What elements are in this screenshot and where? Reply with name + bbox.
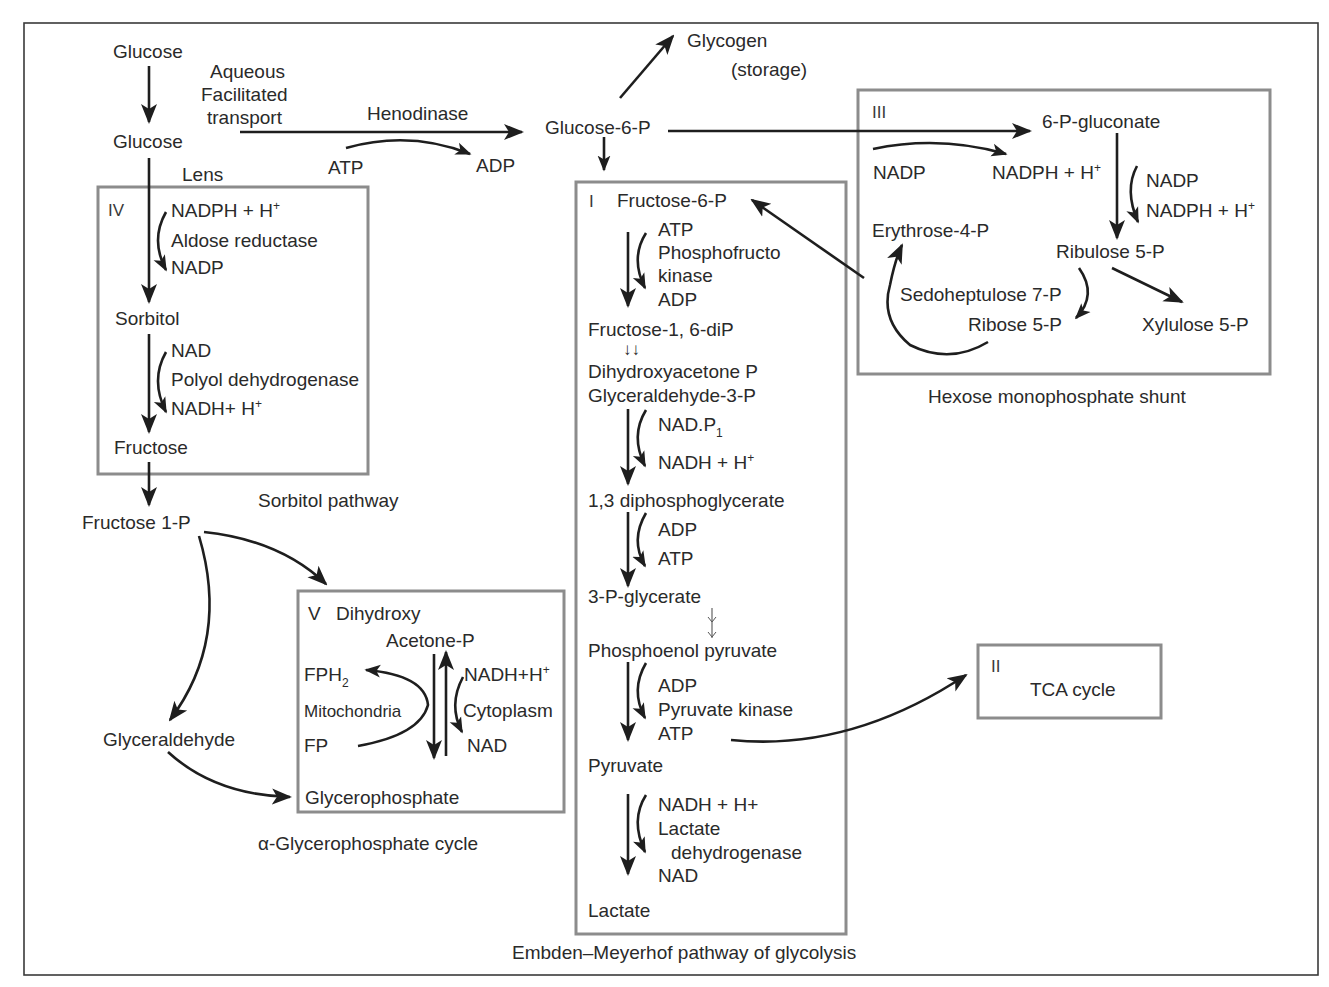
label-atp-3: ATP: [658, 723, 694, 744]
label-nadh-1: NADH + H+: [658, 451, 754, 473]
arrow-nad-cofactor: [158, 352, 166, 412]
label-phosphofructo: Phosphofructo: [658, 242, 781, 263]
caption-glycerophosphate-cycle: α-Glycerophosphate cycle: [258, 833, 478, 854]
node-glucose-aqueous: Glucose: [113, 41, 183, 62]
pathway-diagram: Glucose Aqueous Facilitated transport Gl…: [0, 0, 1329, 987]
node-tca-cycle: TCA cycle: [1030, 679, 1116, 700]
node-dihydroxy: Dihydroxy: [336, 603, 421, 624]
arrow-f1p-to-glyceraldehyde: [170, 536, 210, 720]
node-glycogen: Glycogen: [687, 30, 767, 51]
node-lactate: Lactate: [588, 900, 650, 921]
label-atp-1: ATP: [658, 219, 694, 240]
arrow-ribulose-to-xylulose: [1112, 268, 1182, 302]
label-aldose-reductase: Aldose reductase: [171, 230, 318, 251]
label-nad: NAD: [467, 735, 507, 756]
node-sedoheptulose-7-p: Sedoheptulose 7-P: [900, 284, 1062, 305]
roman-iv: IV: [108, 201, 125, 220]
label-mitochondria: Mitochondria: [304, 702, 402, 721]
node-dihydroxyacetone-p: Dihydroxyacetone P: [588, 361, 758, 382]
arrow-nad-cofactor-1: [638, 410, 646, 466]
node-glyceraldehyde: Glyceraldehyde: [103, 729, 235, 750]
label-adp-2: ADP: [658, 519, 697, 540]
arrow-glyceraldehyde-to-glycerophosphate: [168, 752, 290, 797]
label-nadh: NADH+ H+: [171, 397, 262, 419]
label-nadp-1: NADP: [873, 162, 926, 183]
label-atp: ATP: [328, 157, 364, 178]
label-nad-2: NAD: [658, 865, 698, 886]
label-transport: transport: [207, 107, 283, 128]
label-nad: NAD: [171, 340, 211, 361]
arrow-nadp-cofactor-2: [1131, 166, 1138, 222]
node-pyruvate: Pyruvate: [588, 755, 663, 776]
label-adp-1: ADP: [658, 289, 697, 310]
label-polyol-dehydrogenase: Polyol dehydrogenase: [171, 369, 359, 390]
caption-glycolysis: Embden–Meyerhof pathway of glycolysis: [512, 942, 856, 963]
node-ribulose-5-p: Ribulose 5-P: [1056, 241, 1165, 262]
double-arrow-icon: ↓↓: [623, 340, 640, 359]
label-nadph-1: NADPH + H+: [992, 161, 1101, 183]
arrow-nadp-to-nadph-1: [873, 143, 1006, 154]
arrow-to-glycogen: [620, 36, 673, 98]
label-cytoplasm: Cytoplasm: [463, 700, 553, 721]
node-acetone-p: Acetone-P: [386, 630, 475, 651]
label-nadp-2: NADP: [1146, 170, 1199, 191]
node-xylulose-5-p: Xylulose 5-P: [1142, 314, 1249, 335]
label-adp-3: ADP: [658, 675, 697, 696]
arrow-nadh-cofactor-2: [638, 795, 646, 852]
label-storage: (storage): [731, 59, 807, 80]
arrow-f1p-to-dhap: [204, 532, 326, 584]
roman-iii: III: [872, 103, 886, 122]
node-glucose-lens: Glucose: [113, 131, 183, 152]
label-nadp: NADP: [171, 257, 224, 278]
node-phosphoenol-pyruvate: Phosphoenol pyruvate: [588, 640, 777, 661]
arrow-nadh-cofactor: [455, 677, 463, 732]
roman-i: I: [589, 192, 594, 211]
node-1-3-diphosphoglycerate: 1,3 diphosphoglycerate: [588, 490, 784, 511]
label-nadph-2: NADPH + H+: [1146, 199, 1255, 221]
node-glucose-6-p: Glucose-6-P: [545, 117, 651, 138]
node-erythrose-4-p: Erythrose-4-P: [872, 220, 989, 241]
node-fructose-6-p: Fructose-6-P: [617, 190, 727, 211]
label-kinase: kinase: [658, 265, 713, 286]
label-nadph: NADPH + H+: [171, 199, 280, 221]
node-6-p-gluconate: 6-P-gluconate: [1042, 111, 1160, 132]
node-fructose-1-p: Fructose 1-P: [82, 512, 191, 533]
label-hexokinase: Henodinase: [367, 103, 468, 124]
node-ribose-5-p: Ribose 5-P: [968, 314, 1062, 335]
label-lactate-enzyme: Lactate: [658, 818, 720, 839]
arrow-atp-to-adp: [346, 140, 470, 154]
label-atp-2: ATP: [658, 548, 694, 569]
arrow-adp-cofactor-3: [638, 663, 646, 718]
arrow-ribulose-to-ribose: [1076, 268, 1088, 318]
node-glyceraldehyde-3-p: Glyceraldehyde-3-P: [588, 385, 756, 406]
node-sorbitol: Sorbitol: [115, 308, 179, 329]
label-facilitated: Facilitated: [201, 84, 288, 105]
arrow-atp-cofactor-1: [638, 233, 646, 288]
arrow-nadph-cofactor: [158, 212, 166, 270]
label-fph2: FPH2: [304, 664, 349, 690]
node-fructose-1-6-dip: Fructose-1, 6-diP: [588, 319, 734, 340]
label-nad-p1: NAD.P1: [658, 414, 723, 440]
arrow-adp-cofactor-2: [638, 513, 646, 566]
label-pyruvate-kinase: Pyruvate kinase: [658, 699, 793, 720]
caption-hmp-shunt: Hexose monophosphate shunt: [928, 386, 1186, 407]
roman-v: V: [308, 603, 321, 624]
caption-sorbitol-pathway: Sorbitol pathway: [258, 490, 399, 511]
label-dehydrogenase: dehydrogenase: [671, 842, 802, 863]
label-aqueous: Aqueous: [210, 61, 285, 82]
node-glycerophosphate: Glycerophosphate: [305, 787, 459, 808]
roman-ii: II: [991, 657, 1000, 676]
label-adp: ADP: [476, 155, 515, 176]
node-fructose: Fructose: [114, 437, 188, 458]
label-lens: Lens: [182, 164, 223, 185]
label-nadh-h: NADH+H+: [464, 663, 550, 685]
node-3-p-glycerate: 3-P-glycerate: [588, 586, 701, 607]
label-nadh-2: NADH + H+: [658, 794, 758, 815]
label-fp: FP: [304, 735, 328, 756]
